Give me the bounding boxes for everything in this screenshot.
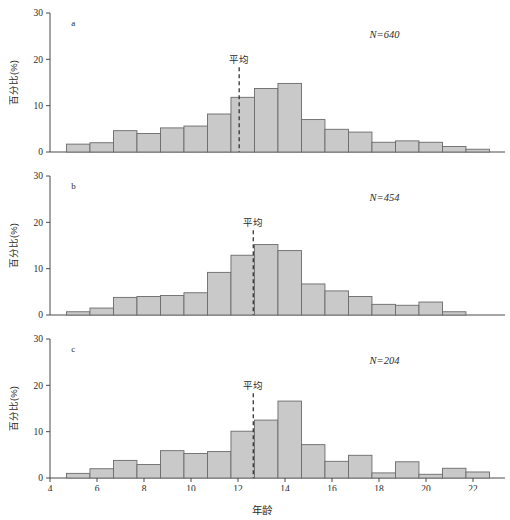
x-tick-label-8: 8 (142, 484, 147, 491)
histogram-bar (348, 296, 372, 315)
mean-label: 平均 (243, 380, 263, 391)
sample-size-label-a: N=640 (369, 29, 401, 40)
y-axis-title-a: 百分比(%) (8, 60, 19, 105)
y-tick-label-10: 10 (34, 101, 44, 111)
histogram-bar (466, 472, 490, 478)
histogram-bar (442, 146, 466, 152)
histogram-bar (90, 469, 114, 478)
histogram-bar (137, 465, 161, 478)
histogram-bar (207, 272, 231, 315)
x-tick-label-4: 4 (48, 484, 53, 491)
histogram-bar (442, 468, 466, 478)
x-tick-label-6: 6 (95, 484, 100, 491)
histogram-bar (466, 149, 490, 152)
plot-area-a: 0102030平均aN=640百分比(%) (0, 0, 510, 165)
histogram-bar (419, 302, 443, 315)
histogram-bar (419, 474, 443, 478)
histogram-bar (160, 451, 184, 478)
histogram-bar (207, 452, 231, 478)
x-tick-label-22: 22 (468, 484, 478, 491)
histogram-bar (395, 462, 419, 478)
histogram-bar (325, 461, 349, 478)
panel-b-histogram: 0102030平均bN=454百分比(%) (0, 163, 510, 328)
y-tick-label-30: 30 (34, 334, 44, 344)
histogram-bar (372, 142, 396, 152)
histogram-bar (301, 284, 325, 315)
histogram-bar (395, 305, 419, 315)
x-axis-title: 年龄 (252, 504, 273, 516)
y-tick-label-20: 20 (34, 381, 44, 391)
y-tick-label-30: 30 (34, 171, 44, 181)
histogram-bar (372, 304, 396, 315)
histogram-bar (442, 312, 466, 315)
histogram-bar (160, 296, 184, 315)
histogram-bar (231, 97, 255, 152)
mean-label: 平均 (243, 217, 263, 228)
histogram-bar (278, 401, 302, 478)
histogram-bar (325, 129, 349, 152)
x-axis-title-svg: 年龄 (0, 500, 510, 520)
x-tick-label-20: 20 (421, 484, 431, 491)
histogram-bar (160, 128, 184, 152)
histogram-bar (278, 83, 302, 152)
y-tick-label-20: 20 (34, 55, 44, 65)
histogram-bar (301, 445, 325, 478)
y-axis-title-b: 百分比(%) (8, 223, 19, 268)
x-tick-label-14: 14 (280, 484, 290, 491)
mean-label: 平均 (229, 54, 249, 65)
histogram-bar (66, 312, 90, 315)
y-tick-label-0: 0 (38, 473, 43, 483)
panel-letter-c: c (71, 344, 75, 354)
y-tick-label-20: 20 (34, 218, 44, 228)
x-tick-label-18: 18 (374, 484, 384, 491)
histogram-bar (231, 431, 255, 478)
histogram-bar (113, 297, 137, 315)
panel-letter-a: a (71, 18, 75, 28)
plot-area-c: 0102030平均cN=204百分比(%)46810121416182022 (0, 326, 510, 491)
histogram-bar (207, 114, 231, 152)
panel-c-histogram: 0102030平均cN=204百分比(%)46810121416182022 (0, 326, 510, 491)
panel-a-histogram: 0102030平均aN=640百分比(%) (0, 0, 510, 165)
histogram-bar (184, 126, 208, 152)
histogram-bar (348, 455, 372, 478)
histogram-bar (325, 291, 349, 315)
y-tick-label-0: 0 (38, 310, 43, 320)
y-tick-label-10: 10 (34, 427, 44, 437)
histogram-bar (184, 453, 208, 478)
histogram-bar (301, 120, 325, 152)
x-tick-label-12: 12 (233, 484, 243, 491)
histogram-bar (137, 133, 161, 152)
histogram-bar (137, 296, 161, 315)
histogram-bar (66, 473, 90, 478)
histogram-bar (348, 132, 372, 152)
histogram-bar (113, 460, 137, 478)
histogram-bar (113, 131, 137, 152)
histogram-bar (278, 251, 302, 315)
sample-size-label-c: N=204 (369, 355, 401, 366)
x-tick-label-16: 16 (327, 484, 337, 491)
histogram-bar (184, 293, 208, 315)
histogram-bar (395, 141, 419, 152)
y-tick-label-30: 30 (34, 8, 44, 18)
histogram-bar (254, 245, 278, 315)
y-tick-label-10: 10 (34, 264, 44, 274)
histogram-bar (66, 144, 90, 152)
y-tick-label-0: 0 (38, 147, 43, 157)
histogram-bar (254, 420, 278, 478)
histogram-bar (254, 89, 278, 152)
histogram-bar (90, 143, 114, 152)
histogram-bar (372, 473, 396, 478)
histogram-bar (231, 255, 255, 315)
x-tick-label-10: 10 (186, 484, 196, 491)
plot-area-b: 0102030平均bN=454百分比(%) (0, 163, 510, 328)
y-axis-title-c: 百分比(%) (8, 386, 19, 431)
sample-size-label-b: N=454 (369, 192, 401, 203)
panel-letter-b: b (71, 181, 76, 191)
histogram-bar (419, 142, 443, 152)
histogram-bar (90, 308, 114, 315)
